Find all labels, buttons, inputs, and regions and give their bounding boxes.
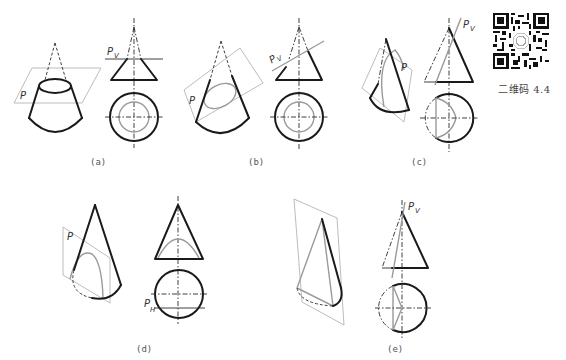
panel-d-pictorial: P [63,205,121,303]
removed-element [424,28,449,82]
caption-c: (c) [411,157,427,167]
panel-e: P V (e) [294,199,431,354]
caption-b: (b) [248,157,264,167]
panel-d-top-view: P H [144,270,207,318]
hidden-base [73,270,92,298]
panel-d: P P H (d) [63,196,207,354]
caption-e: (e) [387,344,403,354]
cone-element [71,86,82,118]
panel-b-front-view: P V [267,18,324,150]
trace-subscript: H [150,306,156,314]
cone-element [196,80,210,122]
removed-element [289,27,299,59]
section-plane [294,199,344,325]
panel-c-pictorial: P [362,39,412,122]
cone-base [92,285,121,299]
cone-element [386,39,409,110]
trace-pv [435,18,461,85]
trace-pv [392,202,405,278]
hidden-element [210,41,221,80]
plane-label: P [189,95,196,106]
caption-d: (d) [136,344,152,354]
section-plane [184,48,263,122]
plane-label: P [401,62,408,73]
cone-base [333,288,342,306]
panel-c: P P V (c) [362,18,478,167]
section-triangle [297,219,333,306]
cone-base [29,118,82,132]
trace-label: P [408,201,415,212]
caption-a: (a) [90,157,106,167]
section-hyperbola [158,239,199,258]
figure-canvas: P P V (a) P [0,0,566,360]
panel-d-front-view [155,196,203,324]
cone-base [196,118,249,133]
trace-label: P [107,46,114,57]
panel-a-pictorial: P [14,43,101,132]
removed-element [299,27,308,51]
panel-b: P P V (b) [184,18,328,167]
cone-element [370,84,378,98]
trace-subscript: V [415,207,421,215]
cone-element [74,205,95,270]
cone-element [29,86,39,118]
plane-label: P [20,90,27,101]
plane-label: P [67,231,74,242]
panel-e-front-view: P V [382,200,428,338]
hidden-element [45,43,55,80]
trace-subscript: V [470,25,476,33]
removed-element [127,27,134,59]
cone-element [95,205,121,285]
qr-caption: 二维码 4.4 [498,81,551,96]
panel-e-top-view [375,284,431,332]
section-hyperbola [70,253,103,298]
panel-b-pictorial: P [184,41,263,133]
hidden-element [55,43,66,80]
section-circle [39,79,71,93]
panel-a: P P V (a) [14,18,163,167]
removed-element [134,27,141,59]
trace-label: P [463,19,470,30]
cone-outline [392,212,428,268]
qr-code-icon[interactable] [493,13,549,69]
panel-e-pictorial [294,199,344,325]
section-plane [14,68,101,103]
